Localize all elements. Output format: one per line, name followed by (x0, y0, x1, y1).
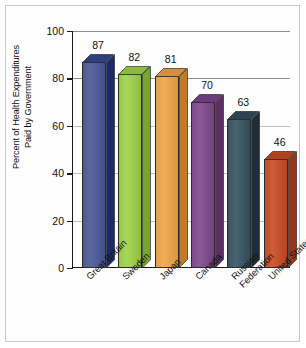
bar-great-britain[interactable] (82, 54, 114, 268)
bar-sweden[interactable] (118, 66, 150, 268)
bar-japan[interactable] (155, 68, 187, 268)
bar-top-face (191, 94, 223, 103)
ytick-label-40: 40 (34, 167, 64, 179)
bar-value-label: 82 (114, 51, 154, 63)
ytick-label-0: 0 (34, 262, 64, 274)
chart-figure: Percent of Health Expenditures Paid by G… (0, 0, 306, 348)
bar-front-face (191, 102, 215, 268)
bar-top-face (155, 68, 187, 77)
bar-top-face (264, 151, 296, 160)
bar-side-face (215, 94, 224, 268)
bar-top-face (82, 54, 114, 63)
x-axis-labels: Great BritainSwedenJapanCanadaRussianFed… (72, 270, 302, 348)
bar-value-label: 46 (260, 136, 300, 148)
bar-series: 878281706346 (72, 31, 290, 268)
plot-area: 100 80 60 40 20 0 878281706346 (72, 31, 290, 268)
bar-value-label: 81 (151, 53, 191, 65)
bar-front-face (227, 119, 251, 268)
bar-top-face (227, 111, 259, 120)
ytick-label-80: 80 (34, 72, 64, 84)
ytick-label-20: 20 (34, 215, 64, 227)
bar-top-face (118, 66, 150, 75)
bar-russian-federation[interactable] (227, 111, 259, 268)
ytick-label-100: 100 (34, 25, 64, 37)
bar-value-label: 63 (223, 96, 263, 108)
bar-value-label: 87 (78, 39, 118, 51)
bar-side-face (106, 54, 115, 268)
ytick-label-60: 60 (34, 120, 64, 132)
bar-front-face (155, 76, 179, 268)
bar-value-label: 70 (187, 79, 227, 91)
bar-canada[interactable] (191, 94, 223, 268)
bar-side-face (142, 66, 151, 268)
bar-side-face (179, 68, 188, 268)
bar-front-face (82, 62, 106, 268)
